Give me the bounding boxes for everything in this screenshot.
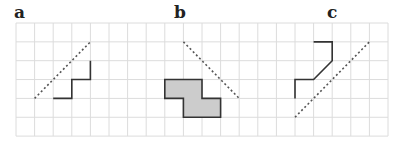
- mirror-line-a: [35, 42, 91, 99]
- shape-b: [165, 80, 221, 118]
- symmetry-grid-diagram: [0, 0, 411, 145]
